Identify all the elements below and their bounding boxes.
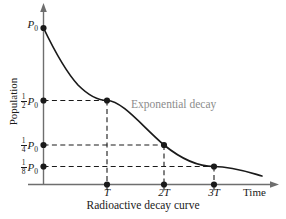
fraction-one-half-numerator: 1 [21, 93, 27, 101]
curve-annotation: Exponential decay [131, 99, 216, 111]
x-tick-2t: 2T [152, 187, 176, 198]
y-tick-half-sub: 0 [34, 101, 38, 110]
radioactive-decay-figure: Population P0 12P0 14P0 18P0 T 2T 3T Tim… [0, 0, 286, 219]
fraction-one-half-denominator: 2 [21, 101, 27, 110]
y-tick-eighth-sub: 0 [34, 167, 38, 176]
fraction-one-eighth: 18 [21, 159, 27, 176]
y-tick-eighth-p0: 18P0 [2, 160, 38, 177]
fraction-one-quarter: 14 [21, 137, 27, 154]
fraction-one-eighth-numerator: 1 [21, 159, 27, 167]
y-tick-half-p0: 12P0 [2, 94, 38, 111]
y-tick-quarter-sub: 0 [34, 145, 38, 154]
figure-caption: Radioactive decay curve [0, 200, 286, 212]
fraction-one-half: 12 [21, 93, 27, 110]
x-tick-3t: 3T [202, 187, 226, 198]
fraction-one-quarter-numerator: 1 [21, 137, 27, 145]
x-tick-t: T [95, 187, 119, 198]
fraction-one-quarter-denominator: 4 [21, 145, 27, 154]
y-tick-p0: P0 [2, 19, 38, 33]
y-tick-quarter-p0: 14P0 [2, 138, 38, 155]
y-tick-p0-sub: 0 [34, 24, 38, 33]
x-axis-label: Time [243, 187, 266, 198]
fraction-one-eighth-denominator: 8 [21, 167, 27, 176]
